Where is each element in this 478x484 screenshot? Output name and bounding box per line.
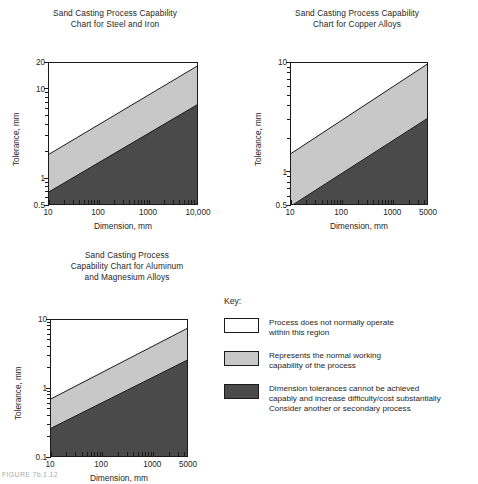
x-axis-minor-tick [84, 200, 85, 205]
y-axis-tick-label: 10 [24, 84, 45, 93]
chart-title: Sand Casting Process Capability Chart fo… [252, 8, 462, 30]
x-axis-tick-label: 10 [285, 208, 294, 217]
chart-panel-steel-and-iron: Sand Casting Process Capability Chart fo… [10, 8, 220, 230]
x-axis-minor-tick [49, 200, 50, 205]
x-axis-minor-tick [91, 200, 92, 205]
x-axis-minor-tick [145, 452, 146, 457]
x-axis-tick-label: 1000 [143, 460, 161, 469]
y-axis-minor-tick [45, 108, 48, 109]
y-axis-minor-tick [287, 188, 290, 189]
plot-box [50, 319, 188, 457]
y-axis-minor-tick [47, 319, 50, 320]
y-axis-minor-tick [45, 102, 48, 103]
y-axis-minor-tick [47, 403, 50, 404]
x-axis-minor-tick [382, 200, 383, 205]
x-axis-minor-tick [100, 452, 101, 457]
plot-box [48, 62, 198, 205]
x-axis-minor-tick [393, 200, 394, 205]
y-axis-tick-label: 20 [24, 58, 45, 67]
x-axis-minor-tick [123, 200, 124, 205]
x-axis-minor-tick [97, 452, 98, 457]
x-axis-minor-tick [178, 452, 179, 457]
y-axis-minor-tick [287, 62, 290, 63]
y-axis-tick-label: 0.5 [266, 201, 287, 210]
chart-panel-aluminum-and-magnesium-alloys: Sand Casting Process Capability Chart fo… [22, 250, 232, 478]
x-axis-minor-tick [138, 200, 139, 205]
x-axis-minor-tick [79, 200, 80, 205]
x-axis-minor-tick [169, 452, 170, 457]
x-axis-minor-tick [91, 452, 92, 457]
y-axis-minor-tick [45, 124, 48, 125]
y-axis-minor-tick [287, 67, 290, 68]
y-axis-minor-tick [45, 97, 48, 98]
plot-box [290, 62, 428, 205]
x-axis-minor-tick [188, 200, 189, 205]
key-swatch-difficult [224, 384, 259, 399]
y-axis-minor-tick [287, 79, 290, 80]
x-axis-tick-label: 10,000 [185, 208, 210, 217]
x-axis-minor-tick [342, 200, 343, 205]
x-axis-minor-tick [75, 452, 76, 457]
plot-area-wrapper: 0.51101010010005000Tolerance, mmDimensio… [252, 30, 462, 230]
y-axis-minor-tick [47, 436, 50, 437]
y-axis-tick-label: 1 [26, 384, 47, 393]
x-axis-minor-tick [291, 200, 292, 205]
x-axis-minor-tick [331, 200, 332, 205]
y-axis-minor-tick [47, 391, 50, 392]
y-axis-minor-tick [47, 367, 50, 368]
x-axis-minor-tick [114, 200, 115, 205]
x-axis-minor-tick [164, 200, 165, 205]
x-axis-minor-tick [424, 200, 425, 205]
y-axis-minor-tick [45, 186, 48, 187]
x-axis-minor-tick [134, 200, 135, 205]
x-axis-minor-tick [118, 452, 119, 457]
y-axis-minor-tick [47, 334, 50, 335]
key-item-white: Process does not normally operate within… [224, 317, 474, 339]
y-axis-tick-label: 1 [24, 174, 45, 183]
x-axis-tick-label: 1000 [139, 208, 157, 217]
y-axis-minor-tick [47, 424, 50, 425]
y-axis-minor-tick [45, 151, 48, 152]
x-axis-minor-tick [88, 200, 89, 205]
x-axis-minor-tick [129, 200, 130, 205]
x-axis-minor-tick [184, 452, 185, 457]
x-axis-minor-tick [378, 200, 379, 205]
y-axis-minor-tick [287, 119, 290, 120]
x-axis-minor-tick [99, 200, 100, 205]
x-axis-minor-tick [418, 200, 419, 205]
x-axis-minor-tick [373, 200, 374, 205]
y-axis-minor-tick [47, 322, 50, 323]
x-axis-label: Dimension, mm [50, 473, 188, 483]
x-axis-minor-tick [194, 200, 195, 205]
x-axis-minor-tick [153, 452, 154, 457]
region-shading [49, 63, 198, 205]
figure-page: Sand Casting Process Capability Chart fo… [0, 0, 478, 484]
chart-title: Sand Casting Process Capability Chart fo… [22, 250, 232, 283]
y-axis-minor-tick [45, 88, 48, 89]
plot-area-wrapper: 0.11101010010005000Tolerance, mmDimensio… [22, 283, 232, 478]
x-axis-minor-tick [144, 200, 145, 205]
x-axis-label: Dimension, mm [290, 221, 428, 231]
key-legend: Key: Process does not normally operate w… [224, 296, 474, 426]
x-axis-tick-label: 5000 [179, 460, 197, 469]
x-axis-minor-tick [102, 452, 103, 457]
x-axis-minor-tick [147, 200, 148, 205]
chart-title: Sand Casting Process Capability Chart fo… [10, 8, 220, 30]
x-axis-minor-tick [191, 200, 192, 205]
y-axis-minor-tick [47, 355, 50, 356]
x-axis-tick-label: 5000 [419, 208, 437, 217]
key-swatch-white [224, 318, 259, 333]
y-axis-minor-tick [47, 329, 50, 330]
x-axis-tick-label: 100 [91, 208, 105, 217]
x-axis-minor-tick [184, 200, 185, 205]
x-axis-minor-tick [327, 200, 328, 205]
x-axis-tick-label: 10 [43, 208, 52, 217]
x-axis-minor-tick [66, 452, 67, 457]
key-item-normal: Represents the normal working capability… [224, 350, 474, 372]
y-axis-tick-label: 10 [266, 58, 287, 67]
x-axis-tick-label: 100 [334, 208, 348, 217]
y-axis-minor-tick [47, 415, 50, 416]
x-axis-minor-tick [322, 200, 323, 205]
y-axis-minor-tick [287, 105, 290, 106]
x-axis-minor-tick [142, 452, 143, 457]
